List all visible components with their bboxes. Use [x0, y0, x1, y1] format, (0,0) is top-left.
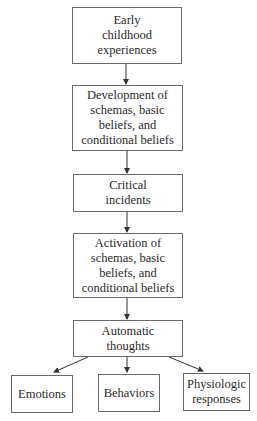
node-early-childhood: Early childhood experiences: [72, 7, 182, 64]
node-label: Automatic thoughts: [102, 324, 155, 354]
node-emotions: Emotions: [11, 375, 73, 413]
node-label: Emotions: [18, 387, 66, 402]
node-physiologic-responses: Physiologic responses: [183, 373, 250, 411]
node-activation: Activation of schemas, basic beliefs, an…: [73, 233, 183, 298]
node-critical-incidents: Critical incidents: [73, 174, 183, 212]
arrow-automatic-to-emotions: [54, 357, 88, 372]
arrow-automatic-to-physiologic: [169, 357, 203, 371]
node-label: Development of schemas, basic beliefs, a…: [81, 88, 174, 148]
node-label: Activation of schemas, basic beliefs, an…: [82, 236, 175, 296]
node-automatic-thoughts: Automatic thoughts: [73, 320, 183, 357]
node-behaviors: Behaviors: [98, 374, 160, 412]
node-development: Development of schemas, basic beliefs, a…: [72, 85, 183, 151]
node-label: Behaviors: [104, 386, 155, 401]
node-label: Physiologic responses: [187, 377, 246, 407]
node-label: Early childhood experiences: [98, 13, 157, 58]
node-label: Critical incidents: [105, 178, 150, 208]
